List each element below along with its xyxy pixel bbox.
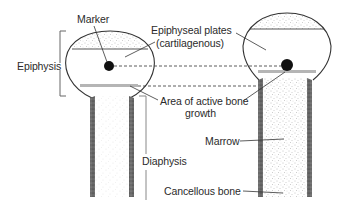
- label-cartilagenous: (cartilagenous): [156, 37, 224, 49]
- right-marker-dot: [281, 59, 293, 71]
- left-cortex-left: [90, 96, 95, 197]
- left-bone: [66, 31, 155, 197]
- right-cortex-right: [307, 78, 312, 197]
- label-epiphysis: Epiphysis: [17, 60, 61, 72]
- right-cap-stipple: [250, 13, 324, 29]
- label-marrow: Marrow: [205, 135, 239, 147]
- label-growth: growth: [185, 107, 216, 119]
- left-cortex-right: [129, 96, 134, 197]
- diaphysis-bracket: [139, 96, 146, 200]
- left-cap-stipple: [72, 31, 148, 49]
- right-marrow-area: [262, 76, 308, 197]
- label-area-active-growth: Area of active bone: [160, 95, 249, 107]
- label-cancellous-bone: Cancellous bone: [164, 185, 241, 197]
- label-marker: Marker: [77, 13, 109, 25]
- left-growth-band: [80, 84, 138, 87]
- left-marrow-area: [94, 95, 130, 197]
- right-cortex-left: [258, 78, 263, 197]
- right-bone: [243, 13, 331, 197]
- left-marker-dot: [104, 61, 114, 71]
- label-diaphysis: Diaphysis: [142, 155, 187, 167]
- label-epiphyseal-plates: Epiphyseal plates: [151, 24, 232, 36]
